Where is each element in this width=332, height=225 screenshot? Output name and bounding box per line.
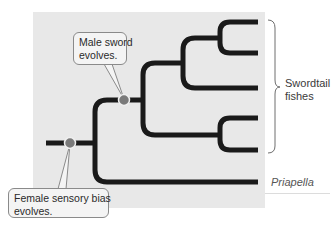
branch-clade-lower [143,100,220,135]
branch-leaf-1 [220,22,258,38]
callout-female-line2: evolves. [14,205,103,218]
label-swordtail-line1: Swordtail [285,77,330,90]
branch-leaf-5 [220,135,258,150]
branch-leaf-4 [220,118,258,135]
swordtail-bracket [268,20,280,153]
branch-subclade-top [183,38,220,63]
callout-female-line1: Female sensory bias [14,192,103,205]
node-male-sword [119,95,130,106]
node-female-sensory-bias [65,138,76,149]
male-callout-pointer [104,64,124,99]
phylogeny-figure: Male sword evolves. Female sensory bias … [0,0,332,225]
callout-male-sword: Male sword evolves. [73,32,127,65]
callout-female-sensory-bias: Female sensory bias evolves. [8,188,109,218]
branch-clade-upper [143,63,183,100]
label-swordtail-line2: fishes [285,90,330,103]
branch-leaf-3 [183,63,258,88]
callout-male-line1: Male sword [79,36,121,49]
branch-leaf-2 [220,38,258,53]
female-callout-pointer [58,144,70,189]
label-priapella: Priapella [271,176,314,189]
callout-male-line2: evolves. [79,49,121,62]
branch-root-fork-upper [95,100,143,143]
label-swordtail-fishes: Swordtail fishes [285,77,330,103]
